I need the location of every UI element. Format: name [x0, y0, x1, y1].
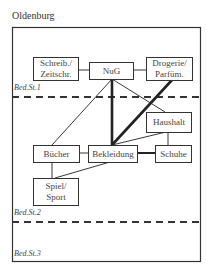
edge-nug-buecher: [52, 79, 112, 145]
edge-haushalt-bekleidung: [112, 132, 166, 145]
zone-label-3: Bed.St.3: [14, 249, 41, 258]
edge-bekleidung-spiel: [55, 162, 110, 178]
node-drogerie-parfuem: Drogerie/ Parfüm.: [146, 57, 193, 81]
node-bekleidung: Bekleidung: [88, 145, 138, 163]
node-buecher: Bücher: [33, 145, 80, 163]
node-schuhe: Schuhe: [155, 145, 192, 163]
node-spiel-sport: Spiel/ Sport: [33, 178, 79, 206]
node-schreib-zeitschr: Schreib./ Zeitschr.: [33, 57, 79, 81]
zone-label-2: Bed.St.2: [14, 208, 41, 217]
node-haushalt: Haushalt: [146, 112, 192, 133]
zone-label-1: Bed.St.1: [14, 83, 41, 92]
diagram-canvas: [0, 0, 206, 273]
node-nug: NuG: [89, 62, 134, 80]
